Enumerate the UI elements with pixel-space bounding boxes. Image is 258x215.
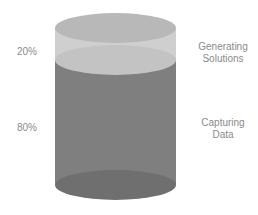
bottom-cap — [55, 170, 176, 200]
label-line: Solutions — [192, 53, 254, 65]
capturing-data-percent: 80% — [12, 122, 42, 134]
cylinder-chart: 20% 80% Generating Solutions Capturing D… — [0, 0, 258, 215]
capturing-data-segment — [55, 60, 176, 185]
top-cap — [55, 13, 176, 43]
capturing-data-label: Capturing Data — [192, 117, 254, 141]
generating-solutions-percent: 20% — [12, 46, 42, 58]
label-line: Data — [192, 129, 254, 141]
label-line: Generating — [192, 41, 254, 53]
segment-divider-cap — [55, 45, 176, 75]
generating-solutions-label: Generating Solutions — [192, 41, 254, 65]
label-line: Capturing — [192, 117, 254, 129]
cylinder-graphic — [0, 0, 258, 215]
